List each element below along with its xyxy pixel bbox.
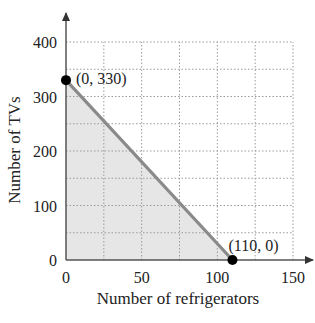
chart: 0501001500100200300400 (0, 330)(110, 0) … bbox=[0, 0, 315, 323]
x-tick-label: 100 bbox=[205, 269, 229, 286]
data-point bbox=[227, 255, 237, 265]
point-label: (0, 330) bbox=[76, 70, 127, 88]
x-tick-label: 50 bbox=[134, 269, 150, 286]
x-tick-label: 150 bbox=[281, 269, 305, 286]
y-tick-label: 100 bbox=[33, 198, 57, 215]
y-tick-label: 0 bbox=[49, 252, 57, 269]
y-tick-label: 400 bbox=[33, 34, 57, 51]
x-axis-title: Number of refrigerators bbox=[97, 289, 259, 308]
y-tick-label: 200 bbox=[33, 143, 57, 160]
point-label: (110, 0) bbox=[228, 237, 278, 255]
y-tick-label: 300 bbox=[33, 89, 57, 106]
x-tick-label: 0 bbox=[62, 269, 70, 286]
data-point bbox=[61, 75, 71, 85]
y-axis-title: Number of TVs bbox=[5, 96, 24, 203]
